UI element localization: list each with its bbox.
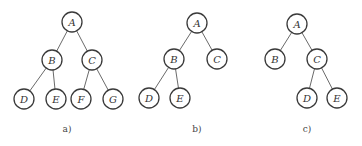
binary-trees-figure: ABCDEFGa)ABCDEb)ABCDEc) — [0, 0, 362, 146]
edge-C-F — [84, 70, 90, 90]
tree-node-D: D — [14, 89, 34, 109]
edge-A-B — [57, 31, 68, 51]
edge-C-G — [97, 69, 109, 90]
node-label: E — [51, 94, 60, 105]
tree-node-G: G — [103, 89, 123, 109]
tree-b: ABCDEb) — [139, 13, 227, 134]
node-label: C — [213, 54, 221, 65]
edge-B-E — [176, 69, 179, 88]
node-label: E — [332, 93, 341, 104]
node-label: D — [19, 94, 28, 105]
node-label: D — [302, 93, 311, 104]
edge-B-D — [30, 68, 46, 91]
node-label: B — [47, 55, 55, 66]
edge-A-C — [202, 32, 212, 51]
edge-A-B — [179, 31, 191, 50]
tree-node-B: B — [42, 50, 62, 70]
edge-A-C — [302, 33, 312, 51]
tree-node-E: E — [46, 89, 66, 109]
node-label: B — [169, 54, 177, 65]
node-label: E — [175, 93, 184, 104]
node-label: B — [270, 54, 278, 65]
edge-C-E — [322, 68, 333, 89]
tree-caption: b) — [192, 124, 201, 134]
node-label: C — [88, 55, 96, 66]
edge-B-D — [154, 67, 168, 89]
tree-node-B: B — [164, 49, 184, 69]
tree-node-A: A — [287, 14, 307, 34]
tree-node-E: E — [170, 88, 190, 108]
tree-node-E: E — [327, 88, 347, 108]
tree-caption: c) — [303, 124, 312, 134]
node-label: A — [192, 18, 200, 29]
tree-node-D: D — [139, 88, 159, 108]
tree-node-A: A — [187, 13, 207, 33]
tree-a: ABCDEFGa) — [14, 12, 123, 134]
tree-node-B: B — [265, 49, 285, 69]
edge-A-B — [280, 32, 291, 50]
tree-caption: a) — [63, 124, 72, 134]
node-label: F — [77, 94, 86, 105]
edge-C-D — [309, 69, 314, 89]
edge-B-E — [53, 70, 55, 89]
tree-node-F: F — [71, 89, 91, 109]
node-label: C — [313, 54, 321, 65]
node-label: A — [292, 19, 300, 30]
tree-node-C: C — [207, 49, 227, 69]
node-label: D — [144, 93, 153, 104]
node-label: G — [109, 94, 117, 105]
tree-node-C: C — [82, 50, 102, 70]
node-label: A — [67, 17, 75, 28]
tree-node-D: D — [297, 88, 317, 108]
tree-node-A: A — [62, 12, 82, 32]
edge-A-C — [77, 31, 88, 51]
tree-node-C: C — [307, 49, 327, 69]
tree-c: ABCDEc) — [265, 14, 347, 134]
